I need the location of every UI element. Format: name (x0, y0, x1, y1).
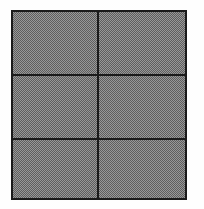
grid-cell-label (10, 9, 11, 10)
grid-cell-row3-col1[interactable] (11, 139, 98, 200)
grid-cell-row1-col2[interactable] (98, 10, 187, 75)
figure-canvas: Shaded rectangular grid A rectangle fill… (0, 0, 204, 209)
grid-figure (11, 10, 187, 200)
grid-cell-row2-col1[interactable] (11, 75, 98, 139)
grid-cell-label (97, 9, 98, 10)
grid-cell-label (10, 138, 11, 139)
grid-cell-row2-col2[interactable] (98, 75, 187, 139)
grid-cell-row3-col2[interactable] (98, 139, 187, 200)
grid-cell-label (97, 74, 98, 75)
grid-cell-label (97, 138, 98, 139)
grid-cell-row1-col1[interactable] (11, 10, 98, 75)
grid-cell-label (10, 74, 11, 75)
